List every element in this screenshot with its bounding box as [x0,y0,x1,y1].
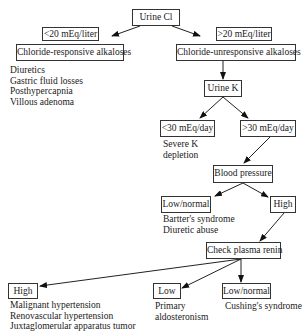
chloride-responsive-node: Chloride-responsive alkaloses [16,44,124,61]
cause-item: Juxtaglomerular apparatus tumor [10,321,136,332]
chloride-responsive-causes: Diuretics Gastric fluid losses Posthyper… [10,65,83,107]
renin-low-normal-causes: Cushing's syndrome [225,301,302,312]
cause-item: Gastric fluid losses [10,76,83,87]
chloride-unresponsive-node: Chloride-unresponsive alkaloses [176,44,296,61]
blood-pressure-node: Blood pressure [213,165,273,183]
bp-high-node: High [270,196,296,213]
renin-high-node: High [8,283,38,299]
urine-k-node: Urine K [204,80,242,97]
gt20-condition-node: >20 mEq/liter [216,27,272,41]
lt20-condition-node: <20 mEq/liter [42,27,99,41]
gt30-condition-node: >30 mEq/day [240,120,296,137]
cause-item: Cushing's syndrome [225,301,302,312]
severe-k-depletion-note: Severe K depletion [163,139,198,160]
cause-item: Malignant hypertension [10,300,136,311]
cause-item: Renovascular hypertension [10,311,136,322]
check-plasma-renin-node: Check plasma renin [206,242,281,259]
renin-high-causes: Malignant hypertension Renovascular hype… [10,300,136,332]
renin-low-normal-node: Low/normal [222,283,271,299]
urine-cl-node: Urine Cl [132,9,180,26]
renin-low-node: Low [153,283,181,299]
note-line: Severe K [163,139,198,150]
cause-item: Posthypercapnia [10,86,83,97]
cause-item: Primary [155,301,208,312]
cause-item: aldosteronism [155,312,208,323]
cause-item: Bartter's syndrome [163,214,235,225]
note-line: depletion [163,150,198,161]
renin-low-causes: Primary aldosteronism [155,301,208,322]
bp-low-normal-causes: Bartter's syndrome Diuretic abuse [163,214,235,235]
bp-low-normal-node: Low/normal [161,196,211,213]
cause-item: Diuretic abuse [163,225,235,236]
cause-item: Diuretics [10,65,83,76]
lt30-condition-node: <30 mEq/day [160,120,215,137]
cause-item: Villous adenoma [10,97,83,108]
